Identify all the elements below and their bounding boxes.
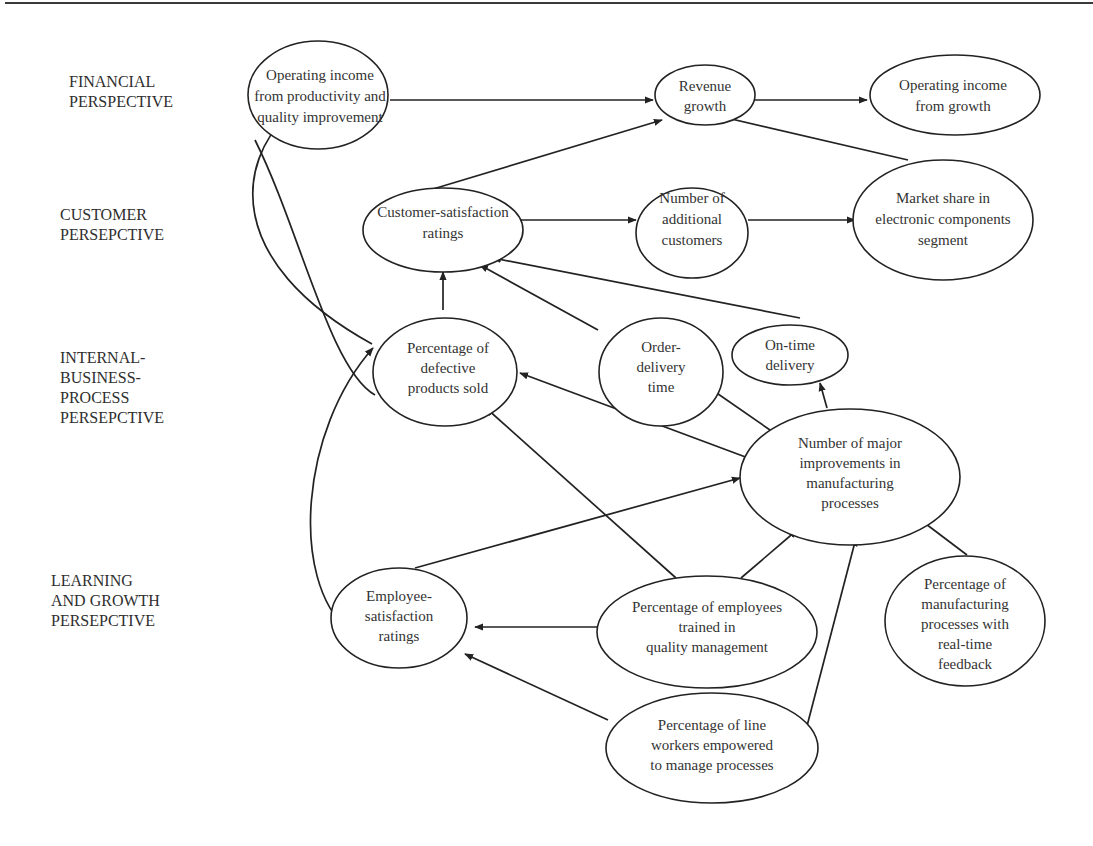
edge-defective-to-opincprod: [255, 140, 375, 395]
svg-text:products sold: products sold: [408, 380, 489, 396]
svg-text:Employee-: Employee-: [366, 588, 432, 604]
svg-text:time: time: [648, 379, 675, 395]
node-employees-trained: Percentage of employees trained in quali…: [597, 576, 817, 688]
svg-text:improvements in: improvements in: [799, 455, 901, 471]
svg-text:additional: additional: [662, 211, 722, 227]
node-additional-customers: Number of additional customers: [636, 188, 748, 278]
svg-text:delivery: delivery: [765, 357, 815, 373]
svg-text:trained in: trained in: [678, 619, 736, 635]
node-revenue-growth: Revenue growth: [655, 65, 755, 125]
svg-text:processes: processes: [821, 495, 879, 511]
edge-empsat-to-improvements: [415, 478, 740, 568]
node-realtime-feedback: Percentage of manufacturing processes wi…: [885, 556, 1045, 686]
svg-text:customers: customers: [662, 232, 723, 248]
svg-text:quality management: quality management: [646, 639, 769, 655]
edge-trained-to-defective: [486, 408, 676, 578]
svg-text:processes with: processes with: [921, 616, 1009, 632]
svg-text:Operating income: Operating income: [266, 67, 374, 83]
edge-improvements-to-ontime: [820, 383, 827, 408]
edge-custsat-to-revenue: [433, 120, 662, 189]
svg-text:segment: segment: [918, 232, 969, 248]
svg-text:to manage processes: to manage processes: [650, 757, 773, 773]
svg-text:growth: growth: [684, 98, 727, 114]
edge-ontime-to-custsat: [493, 258, 800, 318]
svg-text:quality improvement: quality improvement: [257, 109, 383, 125]
svg-text:Percentage of: Percentage of: [924, 576, 1006, 592]
svg-text:workers empowered: workers empowered: [651, 737, 774, 753]
edge-trained-to-improvements: [741, 530, 797, 578]
svg-text:satisfaction: satisfaction: [365, 608, 434, 624]
svg-text:from growth: from growth: [915, 98, 991, 114]
edge-defective-to-opincprod-curve: [253, 116, 372, 344]
svg-text:Percentage of: Percentage of: [407, 340, 489, 356]
svg-text:Revenue: Revenue: [679, 78, 732, 94]
svg-text:electronic components: electronic components: [875, 211, 1011, 227]
node-defective-products: Percentage of defective products sold: [373, 318, 517, 426]
svg-text:ratings: ratings: [379, 628, 420, 644]
svg-text:Percentage of employees: Percentage of employees: [632, 599, 782, 615]
svg-text:ratings: ratings: [423, 225, 464, 241]
svg-text:Number of: Number of: [659, 190, 724, 206]
svg-text:manufacturing: manufacturing: [921, 596, 1009, 612]
svg-text:Customer-satisfaction: Customer-satisfaction: [377, 204, 509, 220]
svg-text:Number of major: Number of major: [798, 435, 902, 451]
node-market-share: Market share in electronic components se…: [853, 160, 1033, 280]
node-customer-satisfaction: Customer-satisfaction ratings: [363, 188, 523, 272]
node-employee-satisfaction: Employee- satisfaction ratings: [331, 568, 467, 668]
edge-lineworkers-to-empsat: [465, 654, 608, 720]
node-op-income-productivity: Operating income from productivity and q…: [248, 41, 388, 149]
svg-text:from productivity and: from productivity and: [254, 88, 386, 104]
svg-text:On-time: On-time: [765, 337, 815, 353]
svg-text:Operating income: Operating income: [899, 77, 1007, 93]
edge-marketshare-to-revenue: [710, 114, 908, 160]
node-op-income-growth: Operating income from growth: [870, 55, 1040, 135]
svg-text:delivery: delivery: [636, 359, 686, 375]
node-order-delivery-time: Order- delivery time: [599, 318, 723, 426]
svg-text:Market share in: Market share in: [896, 190, 991, 206]
node-major-improvements: Number of major improvements in manufact…: [740, 409, 960, 545]
svg-text:manufacturing: manufacturing: [806, 475, 894, 491]
svg-text:Order-: Order-: [641, 339, 681, 355]
svg-text:defective: defective: [421, 360, 476, 376]
svg-text:real-time: real-time: [938, 636, 992, 652]
svg-text:feedback: feedback: [938, 656, 993, 672]
svg-text:Percentage of line: Percentage of line: [658, 717, 767, 733]
node-on-time-delivery: On-time delivery: [732, 325, 848, 385]
node-line-workers-empowered: Percentage of line workers empowered to …: [606, 693, 818, 803]
strategy-map-diagram: Operating income from productivity and q…: [0, 0, 1093, 846]
